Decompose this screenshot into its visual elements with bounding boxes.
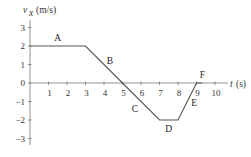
x-tick-label: 7 [158, 88, 163, 98]
x-tick-label: 9 [195, 88, 200, 98]
segment-labels: ABCDEF [54, 33, 205, 134]
y-tick-label: −3 [15, 134, 25, 144]
x-tick-label: 4 [103, 88, 108, 98]
segment-label-b: B [107, 56, 113, 66]
segment-label-f: F [200, 70, 205, 80]
y-tick-label: 0 [21, 78, 26, 88]
y-axis-title-unit: (m/s) [36, 5, 56, 16]
x-ticks: 12345678910 [47, 82, 221, 99]
velocity-time-chart: v x (m/s) t (s) 3210−1−2−3 12345678910 A… [0, 0, 251, 157]
segment-label-a: A [54, 33, 61, 43]
x-tick-label: 10 [212, 88, 222, 98]
y-tick-label: 1 [21, 60, 26, 70]
x-tick-label: 2 [66, 88, 71, 98]
segment-label-d: D [165, 124, 172, 134]
y-axis-title-subscript: x [28, 8, 34, 18]
y-tick-label: −2 [15, 115, 25, 125]
y-tick-label: 2 [21, 41, 26, 51]
y-tick-label: 3 [21, 23, 26, 33]
x-axis-title-unit: (s) [236, 79, 246, 90]
y-tick-label: −1 [15, 97, 25, 107]
x-tick-label: 6 [140, 88, 145, 98]
segment-label-c: C [132, 104, 138, 114]
x-axis-title-var: t [230, 79, 233, 89]
x-tick-label: 5 [121, 88, 126, 98]
x-axis-title: t [230, 79, 233, 89]
y-axis-title: v [23, 5, 28, 15]
y-ticks: 3210−1−2−3 [15, 23, 31, 144]
segment-label-e: E [191, 98, 197, 108]
x-tick-label: 8 [177, 88, 182, 98]
x-tick-label: 1 [47, 88, 52, 98]
x-tick-label: 3 [84, 88, 89, 98]
